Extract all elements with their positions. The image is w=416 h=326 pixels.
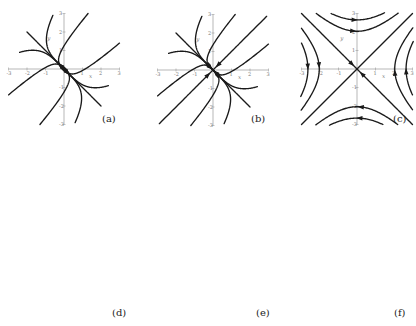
trajectory — [40, 69, 69, 124]
trajectory — [331, 13, 384, 20]
x-tick-label: -1 — [44, 70, 49, 76]
x-axis-label: x — [382, 73, 386, 79]
y-tick-label: -1 — [59, 84, 64, 90]
panel-a: -3-2-1123321-1-2-3xy — [7, 10, 121, 127]
caption-e: (e) — [256, 307, 270, 318]
y-tick-label: 3 — [59, 10, 62, 16]
x-tick-label: 2 — [99, 70, 102, 76]
y-tick-label: -1 — [352, 84, 357, 90]
y-tick-label: -3 — [352, 121, 357, 127]
trajectory — [169, 51, 213, 69]
x-tick-label: -1 — [337, 70, 342, 76]
panel-b: -3-2-1123321-1-2-3xy — [156, 11, 270, 128]
trajectory — [59, 14, 89, 69]
x-tick-label: -1 — [193, 71, 198, 77]
x-tick-label: -2 — [25, 70, 30, 76]
y-tick-label: -2 — [208, 104, 213, 110]
trajectory — [158, 65, 213, 96]
y-tick-label: -2 — [59, 103, 64, 109]
x-tick-label: 3 — [118, 70, 121, 76]
x-axis-label: x — [89, 73, 93, 79]
x-tick-label: 2 — [248, 71, 251, 77]
trajectory — [9, 64, 64, 95]
caption-f: (f) — [394, 307, 406, 318]
x-tick-label: -3 — [156, 71, 161, 77]
x-tick-label: -2 — [174, 71, 179, 77]
x-tick-label: -3 — [7, 70, 12, 76]
trajectory — [64, 43, 119, 74]
caption-a: (a) — [102, 113, 116, 124]
x-tick-label: 1 — [374, 70, 377, 76]
caption-d: (d) — [112, 307, 126, 318]
y-tick-label: 3 — [352, 10, 355, 16]
y-tick-label: -3 — [59, 121, 64, 127]
trajectory — [213, 16, 266, 69]
caption-b: (b) — [251, 113, 265, 124]
x-axis-label: x — [238, 74, 242, 80]
y-axis-label: y — [339, 35, 344, 42]
y-tick-label: -2 — [352, 103, 357, 109]
caption-c: (c) — [393, 113, 406, 124]
trajectory — [20, 50, 64, 68]
x-tick-label: 3 — [267, 71, 270, 77]
plots-canvas: -3-2-1123321-1-2-3xy-3-2-1123321-1-2-3xy… — [0, 0, 416, 326]
x-tick-label: 3 — [411, 70, 414, 76]
y-tick-label: 3 — [208, 11, 211, 17]
y-tick-label: 2 — [59, 29, 62, 35]
y-tick-label: -1 — [208, 85, 213, 91]
trajectory — [213, 44, 268, 75]
panel-c: -3-2-1123321-1-2-3xy — [300, 10, 414, 127]
trajectory — [159, 70, 212, 123]
trajectory — [406, 42, 413, 95]
y-tick-label: -3 — [208, 122, 213, 128]
y-tick-label: 2 — [208, 30, 211, 36]
y-tick-label: 1 — [352, 47, 355, 53]
x-tick-label: -3 — [300, 70, 305, 76]
